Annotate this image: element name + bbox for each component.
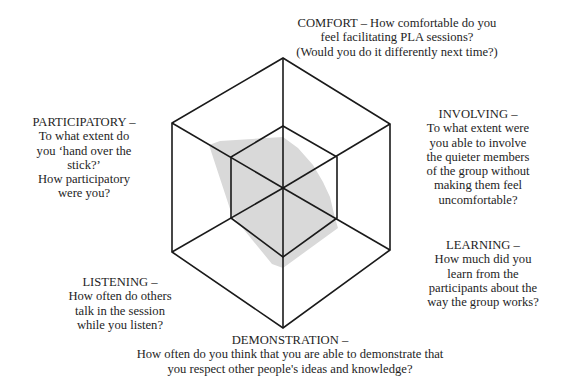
involving-line: of the group without bbox=[426, 164, 529, 178]
participatory-line: were you? bbox=[33, 186, 136, 200]
involving-line: the quieter members bbox=[426, 150, 529, 164]
participatory-line: PARTICIPATORY – bbox=[33, 115, 136, 129]
participatory-line: How participatory bbox=[33, 172, 136, 186]
comfort-line: feel facilitating PLA sessions? bbox=[296, 30, 498, 44]
involving-line: uncomfortable? bbox=[426, 193, 529, 207]
involving-line: INVOLVING – bbox=[426, 107, 529, 121]
involving-line: making them feel bbox=[426, 178, 529, 192]
listening-line: while you listen? bbox=[68, 318, 171, 332]
label-comfort: COMFORT – How comfortable do you feel fa… bbox=[296, 16, 498, 59]
comfort-line: COMFORT – How comfortable do you bbox=[296, 16, 498, 30]
involving-line: you able to involve bbox=[426, 136, 529, 150]
listening-line: How often do others bbox=[68, 289, 171, 303]
label-listening: LISTENING – How often do others talk in … bbox=[68, 275, 171, 332]
involving-line: To what extent were bbox=[426, 121, 529, 135]
demonstration-line: How often do you think that you are able… bbox=[137, 347, 444, 361]
learning-line: participants about the bbox=[427, 281, 539, 295]
participatory-line: stick?’ bbox=[33, 158, 136, 172]
label-learning: LEARNING – How much did you learn from t… bbox=[427, 238, 539, 309]
listening-line: LISTENING – bbox=[68, 275, 171, 289]
learning-line: way the group works? bbox=[427, 295, 539, 309]
listening-line: talk in the session bbox=[68, 304, 171, 318]
learning-line: learn from the bbox=[427, 267, 539, 281]
participatory-line: you ‘hand over the bbox=[33, 144, 136, 158]
demonstration-line: you respect other people's ideas and kno… bbox=[137, 362, 444, 376]
label-demonstration: DEMONSTRATION – How often do you think t… bbox=[137, 333, 444, 376]
label-participatory: PARTICIPATORY – To what extent do you ‘h… bbox=[33, 115, 136, 201]
participatory-line: To what extent do bbox=[33, 129, 136, 143]
learning-line: LEARNING – bbox=[427, 238, 539, 252]
learning-line: How much did you bbox=[427, 252, 539, 266]
demonstration-line: DEMONSTRATION – bbox=[137, 333, 444, 347]
comfort-line: (Would you do it differently next time?) bbox=[296, 45, 498, 59]
label-involving: INVOLVING – To what extent were you able… bbox=[426, 107, 529, 207]
